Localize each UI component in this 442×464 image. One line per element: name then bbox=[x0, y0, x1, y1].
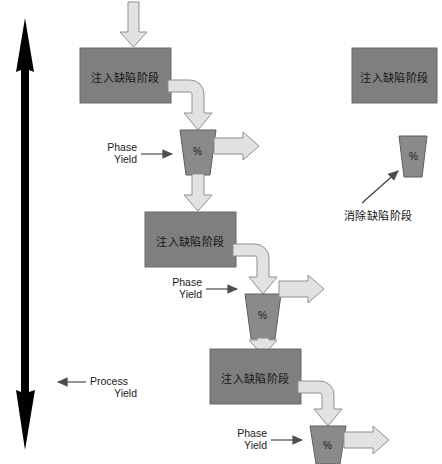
stage-3-box-label: 注入缺陷阶段 bbox=[210, 370, 301, 386]
legend-funnel-label: % bbox=[409, 151, 418, 162]
process-yield-scale-arrow bbox=[16, 18, 35, 450]
stage-3-elbow-arrow bbox=[298, 381, 342, 426]
stage-1-elbow-arrow bbox=[168, 80, 212, 130]
stage-2-output-arrow bbox=[279, 275, 324, 303]
legend-pointer bbox=[362, 171, 398, 203]
diagram-canvas: 注入缺陷阶段 % Phase Yield 注入缺陷阶段 % Phase Yiel… bbox=[0, 0, 442, 464]
stage-1-to-stage-2-arrow bbox=[184, 174, 212, 211]
stage-2-elbow-arrow bbox=[233, 244, 277, 294]
stage-1-funnel-label: % bbox=[193, 146, 202, 157]
stage-2-phase-yield-line1: Phase bbox=[149, 276, 202, 289]
stage-2-phase-yield-line2: Yield bbox=[149, 288, 202, 301]
process-yield-line2: Yield bbox=[90, 387, 137, 400]
stage-2-box-label: 注入缺陷阶段 bbox=[145, 233, 236, 249]
legend-caption: 消除缺陷阶段 bbox=[344, 207, 412, 223]
process-yield-line1: Process bbox=[90, 375, 128, 388]
stage-1-phase-yield-line2: Yield bbox=[84, 153, 137, 166]
stage-1-input-arrow bbox=[120, 2, 147, 47]
stage-2-funnel-label: % bbox=[258, 310, 267, 321]
stage-3-phase-yield-line2: Yield bbox=[214, 439, 267, 452]
stage-3-output-arrow bbox=[344, 426, 389, 454]
legend-box-label: 注入缺陷阶段 bbox=[352, 69, 437, 85]
stage-3-funnel-label: % bbox=[323, 440, 332, 451]
stage-1-box-label: 注入缺陷阶段 bbox=[80, 69, 171, 85]
stage-1-output-arrow bbox=[214, 132, 259, 160]
stage-3-phase-yield-line1: Phase bbox=[214, 427, 267, 440]
stage-1-phase-yield-line1: Phase bbox=[84, 141, 137, 154]
